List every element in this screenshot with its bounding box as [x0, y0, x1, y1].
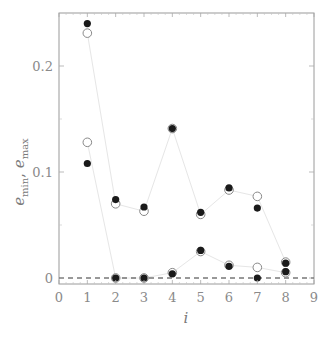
- filled-circle-marker: [197, 209, 204, 216]
- x-tick-label: 0: [55, 290, 63, 305]
- y-axis-title-sep: ,: [10, 168, 28, 178]
- filled-circle-marker: [169, 125, 176, 132]
- series-lines: [87, 33, 285, 278]
- y-axis-title-e1: e: [10, 197, 28, 206]
- x-tick-label: 1: [83, 290, 91, 305]
- x-tick-label: 8: [282, 290, 290, 305]
- filled-circle-marker: [169, 270, 176, 277]
- filled-circle-marker: [282, 260, 289, 267]
- axis-ticks: 012345678900.10.2: [32, 13, 318, 305]
- x-tick-label: 5: [197, 290, 205, 305]
- open-circle-marker: [83, 29, 92, 38]
- y-tick-label: 0.1: [32, 165, 53, 180]
- x-tick-label: 7: [253, 290, 261, 305]
- y-axis-title-sub-max: max: [19, 138, 30, 159]
- filled-circle-marker: [197, 247, 204, 254]
- data-points: [83, 20, 290, 282]
- plot-frame: [59, 13, 314, 284]
- x-tick-label: 3: [140, 290, 148, 305]
- filled-circle-marker: [84, 160, 91, 167]
- plot-border: [59, 13, 314, 284]
- filled-circle-marker: [84, 20, 91, 27]
- x-tick-label: 2: [112, 290, 120, 305]
- filled-circle-marker: [225, 263, 232, 270]
- x-tick-label: 9: [310, 290, 318, 305]
- x-tick-label: 6: [225, 290, 233, 305]
- open-circle-marker: [253, 263, 262, 272]
- open-circle-marker: [83, 138, 92, 147]
- series-line: [87, 33, 285, 262]
- filled-circle-marker: [282, 268, 289, 275]
- y-axis-title: emin, emax: [10, 138, 30, 206]
- y-axis-title-sub-min: min: [19, 177, 30, 197]
- y-tick-label: 0.2: [32, 59, 53, 74]
- filled-circle-marker: [254, 204, 261, 211]
- y-tick-label: 0: [45, 271, 53, 286]
- x-tick-label: 4: [168, 290, 176, 305]
- chart: 012345678900.10.2 i emin, emax: [0, 0, 334, 337]
- filled-circle-marker: [112, 196, 119, 203]
- x-axis-title: i: [184, 309, 189, 327]
- filled-circle-marker: [140, 203, 147, 210]
- y-axis-title-e2: e: [10, 159, 28, 168]
- filled-circle-marker: [225, 184, 232, 191]
- open-circle-marker: [253, 192, 262, 201]
